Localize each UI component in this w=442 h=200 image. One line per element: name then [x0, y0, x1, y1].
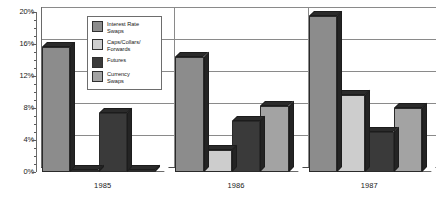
chart-legend: Interest RateSwapsCaps/Collars/ForwardsF…	[87, 16, 162, 90]
bar-side	[365, 90, 370, 172]
bar-face	[309, 16, 337, 172]
legend-label: Caps/Collars/Forwards	[107, 39, 141, 54]
bar-side	[204, 52, 209, 172]
y-minor-tick	[34, 68, 37, 69]
y-axis-front-line	[36, 12, 37, 172]
y-minor-tick	[34, 84, 37, 85]
y-minor-tick	[34, 36, 37, 37]
legend-label: CurrencySwaps	[107, 71, 130, 86]
bar-face	[127, 170, 155, 172]
y-minor-tick	[34, 100, 37, 101]
y-minor-tick	[34, 164, 37, 165]
gridline	[41, 7, 436, 8]
bar-side	[127, 108, 132, 172]
y-minor-tick	[34, 148, 37, 149]
y-axis: 0%4%8%12%16%20%	[0, 0, 34, 200]
bar-1985-currency-swaps	[127, 170, 155, 172]
y-minor-tick	[34, 28, 37, 29]
y-minor-tick	[34, 116, 37, 117]
bar-1987-interest-rate-swaps	[309, 16, 337, 172]
bar-1986-interest-rate-swaps	[175, 57, 203, 172]
bar-face	[99, 113, 127, 172]
bar-face	[42, 47, 70, 172]
bar-1985-caps-collars-forwards	[70, 170, 98, 172]
bar-side	[337, 11, 342, 172]
bar-face	[175, 57, 203, 172]
bar-side	[70, 42, 75, 172]
y-minor-tick	[34, 20, 37, 21]
bar-side	[422, 103, 427, 172]
y-minor-tick	[34, 156, 37, 157]
y-minor-tick	[34, 52, 37, 53]
legend-swatch	[92, 39, 103, 50]
legend-swatch	[92, 21, 103, 32]
y-major-tick	[32, 76, 36, 77]
x-tick-label: 1986	[169, 182, 302, 190]
y-major-tick	[32, 44, 36, 45]
gridline	[41, 103, 436, 104]
bar-face	[70, 170, 98, 172]
y-minor-tick	[34, 132, 37, 133]
bar-1985-futures	[99, 113, 127, 172]
y-major-tick	[32, 108, 36, 109]
bar-side	[260, 116, 265, 172]
legend-label: Futures	[107, 57, 126, 64]
y-major-tick	[32, 12, 36, 13]
bar-chart: 0%4%8%12%16%20% 198519861987 Interest Ra…	[0, 0, 442, 200]
y-minor-tick	[34, 60, 37, 61]
legend-item: CurrencySwaps	[92, 71, 158, 86]
bar-side	[289, 100, 294, 172]
x-tick-label: 1987	[303, 182, 436, 190]
y-major-tick	[32, 172, 36, 173]
y-major-tick	[32, 140, 36, 141]
y-minor-tick	[34, 124, 37, 125]
legend-swatch	[92, 71, 103, 82]
y-minor-tick	[34, 92, 37, 93]
bar-1985-interest-rate-swaps	[42, 47, 70, 172]
bar-side	[394, 127, 399, 172]
legend-item: Interest RateSwaps	[92, 21, 158, 36]
legend-label: Interest RateSwaps	[107, 21, 139, 36]
legend-item: Futures	[92, 57, 158, 68]
x-tick-label: 1985	[36, 182, 169, 190]
legend-item: Caps/Collars/Forwards	[92, 39, 158, 54]
legend-swatch	[92, 57, 103, 68]
